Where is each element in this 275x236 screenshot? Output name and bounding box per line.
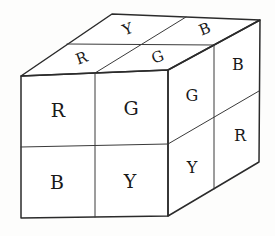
right-bottom-back-letter: R [234, 126, 247, 145]
front-bottom-left-letter: B [50, 171, 64, 193]
right-top-front-letter: G [186, 86, 199, 105]
front-bottom-right-letter: Y [123, 170, 137, 192]
cube-sketch-canvas: Y B R G G B Y R R G [0, 0, 275, 236]
right-bottom-front-letter: Y [186, 158, 198, 177]
front-top-left-letter: R [51, 99, 66, 121]
cube-drawing: Y B R G G B Y R R G [0, 0, 275, 236]
front-top-right-letter: G [123, 97, 138, 119]
right-top-back-letter: B [232, 55, 244, 74]
